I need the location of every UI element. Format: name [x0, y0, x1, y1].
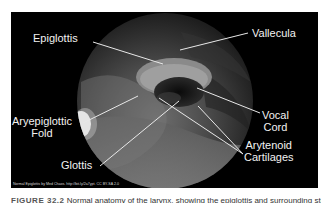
- vocal-cord-line2: Cord: [262, 121, 289, 133]
- endoscopic-larynx-figure: Epiglottis Vallecula Vocal Cord Aryepigl…: [11, 12, 318, 188]
- label-arytenoid-cartilages: Arytenoid Cartilages: [244, 139, 294, 163]
- aryepiglottic-line2: Fold: [12, 127, 72, 139]
- label-vallecula: Vallecula: [252, 27, 296, 39]
- label-glottis: Glottis: [61, 159, 92, 171]
- arytenoid-line1: Arytenoid: [244, 139, 294, 151]
- label-epiglottis: Epiglottis: [33, 32, 78, 44]
- figure-caption: FIGURE 32.2 Normal anatomy of the larynx…: [11, 196, 321, 203]
- image-credit: Normal Epiglottis by Med Chaos. http://b…: [13, 182, 119, 186]
- figure-number: FIGURE 32.2: [11, 196, 65, 203]
- vocal-cord-line1: Vocal: [262, 109, 289, 121]
- label-vocal-cord: Vocal Cord: [262, 109, 289, 133]
- label-aryepiglottic-fold: Aryepiglottic Fold: [12, 115, 72, 139]
- arytenoid-line2: Cartilages: [244, 151, 294, 163]
- figure-caption-text: Normal anatomy of the larynx, showing th…: [67, 196, 321, 203]
- aryepiglottic-line1: Aryepiglottic: [12, 115, 72, 127]
